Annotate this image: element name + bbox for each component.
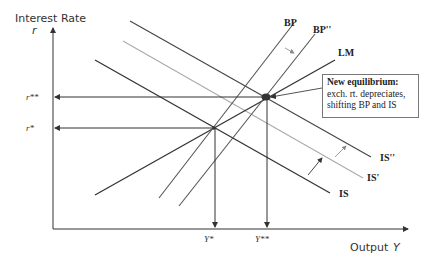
bp-shift-arrow: [285, 48, 294, 53]
annotation-text: exch. rt. depreciates, shifting BP and I…: [327, 89, 405, 111]
new-equilibrium-point: [262, 94, 271, 101]
label-bp2: BP'': [313, 24, 332, 35]
tick-y-star: Y*: [204, 234, 214, 244]
label-is: IS: [339, 188, 349, 199]
is-shift-arrow: [308, 158, 322, 175]
label-is1: IS': [367, 172, 379, 183]
y-axis-title: Interest Rate: [15, 12, 86, 25]
tick-y-star-star: Y**: [255, 234, 270, 244]
is2-shift-arrow: [335, 146, 346, 157]
tick-r-star: r*: [26, 123, 35, 133]
label-bp: BP: [284, 17, 297, 28]
y-axis-symbol: r: [32, 24, 38, 37]
is-curve: [95, 60, 330, 193]
annotation-bold: New equilibrium:: [327, 77, 399, 87]
x-axis-title: Output: [350, 241, 389, 254]
is-lm-bp-diagram: Interest Rate r Output Y r** r* Y* Y** B…: [0, 0, 436, 263]
new-equilibrium-annotation: New equilibrium: exch. rt. depreciates, …: [322, 74, 419, 118]
label-is2: IS'': [380, 152, 395, 163]
initial-equilibrium-point: [212, 126, 216, 130]
label-lm: LM: [338, 47, 355, 58]
annotation-pointer: [271, 88, 322, 97]
x-axis-symbol: Y: [393, 241, 401, 254]
tick-r-star-star: r**: [26, 92, 39, 102]
